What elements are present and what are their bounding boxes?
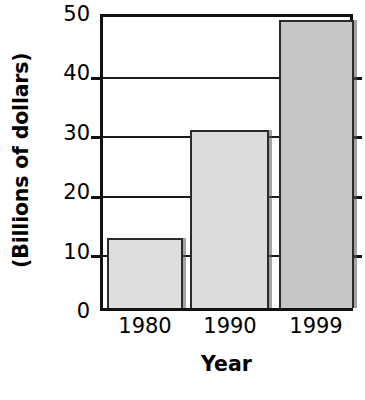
bar-chart: (Billions of dollars) 50 40 30 20 10 0: [0, 0, 365, 400]
bar-1990[interactable]: [190, 130, 269, 308]
x-axis-tick-labels: 1980 1990 1999: [100, 316, 353, 350]
y-tick-label-40: 40: [63, 63, 90, 84]
y-tick-mark-left-20: [91, 196, 100, 199]
y-tick-label-10: 10: [63, 242, 90, 263]
y-tick-label-50: 50: [63, 4, 90, 25]
plot-inner: [103, 17, 350, 308]
y-axis-title: (Billions of dollars): [0, 0, 44, 320]
y-axis-tick-labels: 50 40 30 20 10 0: [44, 0, 98, 400]
y-axis-title-text: (Billions of dollars): [12, 52, 33, 267]
y-tick-mark-left-40: [91, 77, 100, 80]
bar-1980[interactable]: [107, 238, 183, 308]
y-tick-mark-right-10: [353, 255, 362, 258]
plot-area: [100, 14, 353, 311]
x-tick-label-1999: 1999: [289, 316, 342, 337]
bar-1999[interactable]: [279, 20, 354, 308]
y-tick-mark-left-30: [91, 136, 100, 139]
y-tick-mark-right-40: [353, 77, 362, 80]
x-axis-title: Year: [100, 354, 353, 375]
x-tick-label-1990: 1990: [203, 316, 256, 337]
y-tick-label-20: 20: [63, 182, 90, 203]
y-tick-label-30: 30: [63, 123, 90, 144]
y-tick-label-0: 0: [77, 301, 90, 322]
y-tick-mark-left-10: [91, 255, 100, 258]
y-tick-mark-right-30: [353, 136, 362, 139]
x-tick-label-1980: 1980: [118, 316, 171, 337]
y-tick-mark-right-20: [353, 196, 362, 199]
